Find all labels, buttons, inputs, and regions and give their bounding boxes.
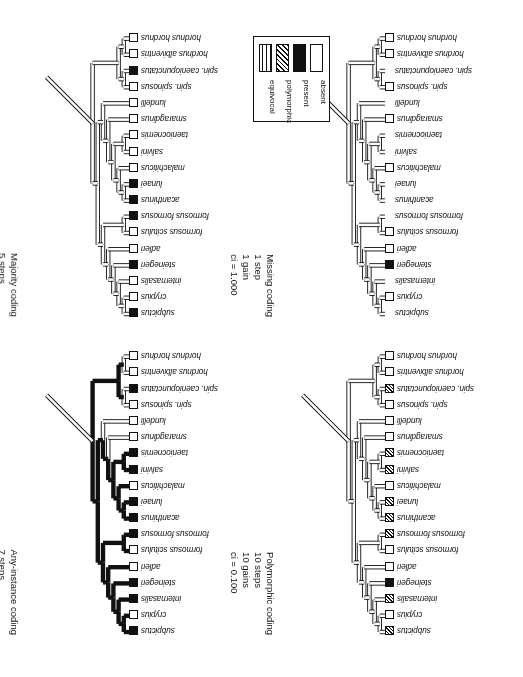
state-box-absent xyxy=(129,367,138,376)
state-box-none xyxy=(385,67,392,74)
taxon-row: formosus formosus xyxy=(385,526,517,542)
taxon-row: internasalis xyxy=(385,590,517,606)
state-box-present xyxy=(385,578,394,587)
taxon-name: crypius xyxy=(141,610,166,619)
panel-steps: 10 steps xyxy=(252,552,264,635)
state-box-absent xyxy=(129,481,138,490)
state-box-present xyxy=(129,465,138,474)
taxon-name: hordnus albiventris xyxy=(397,49,464,58)
taxon-row: spin. caeniopunctatus xyxy=(129,380,261,396)
state-box-present xyxy=(129,513,138,522)
state-box-absent xyxy=(385,481,394,490)
taxon-row: subpictus xyxy=(385,623,517,639)
taxon-row: lundelli xyxy=(129,412,261,428)
state-box-absent xyxy=(129,562,138,571)
legend-swatch-present xyxy=(293,44,306,72)
taxon-row: spin. spinosus xyxy=(129,396,261,412)
state-box-present xyxy=(129,179,138,188)
state-box-absent xyxy=(385,292,394,301)
state-box-present xyxy=(129,448,138,457)
taxon-row: spin. caeniopunctatus xyxy=(385,62,517,78)
taxon-row: malachiticus xyxy=(129,159,261,175)
state-box-none xyxy=(385,277,392,284)
taxon-name: formosus formosus xyxy=(141,529,209,538)
cladogram xyxy=(16,25,129,325)
taxon-row: hordnus albiventris xyxy=(129,46,261,62)
state-box-absent xyxy=(129,98,138,107)
taxon-name: spin. spinosus xyxy=(141,400,191,409)
state-box-none xyxy=(385,180,392,187)
taxon-row: acanthinus xyxy=(385,192,517,208)
taxon-row: hordnus hordnus xyxy=(129,30,261,46)
state-box-absent xyxy=(385,227,394,236)
state-box-present xyxy=(385,260,394,269)
state-box-absent xyxy=(129,292,138,301)
state-box-polymorphic xyxy=(385,594,394,603)
taxon-name: smaragdinus xyxy=(397,114,443,123)
taxon-name: hordnus albiventris xyxy=(397,367,464,376)
taxon-name: salvini xyxy=(397,465,419,474)
taxon-name: acanthinus xyxy=(397,513,436,522)
state-box-polymorphic xyxy=(385,448,394,457)
taxon-name: lundelli xyxy=(397,416,422,425)
taxon-name: lunaei xyxy=(395,179,416,188)
legend-item xyxy=(258,44,273,72)
taxon-row: lunaei xyxy=(385,175,517,191)
legend-item xyxy=(309,44,324,72)
state-box-none xyxy=(385,212,392,219)
state-box-absent xyxy=(129,610,138,619)
taxon-name: internasalis xyxy=(141,594,181,603)
panel-steps: 5 steps xyxy=(0,253,8,317)
legend-swatch-absent xyxy=(310,44,323,72)
state-box-absent xyxy=(385,49,394,58)
state-box-polymorphic xyxy=(385,529,394,538)
state-box-absent xyxy=(129,114,138,123)
taxon-name: formosus formosus xyxy=(395,211,463,220)
taxon-row: acanthinus xyxy=(129,510,261,526)
taxon-name: lundelli xyxy=(141,416,166,425)
panel-any-instance-coding: Any-instance coding7 steps1 gain, 6 loss… xyxy=(16,343,261,643)
taxon-name: formosus scitulus xyxy=(141,227,203,236)
taxon-row: malachiticus xyxy=(129,477,261,493)
taxon-name: internasalis xyxy=(395,276,435,285)
taxon-row: salvini xyxy=(385,461,517,477)
taxon-row: smaragdinus xyxy=(385,429,517,445)
taxon-row: smaragdinus xyxy=(129,429,261,445)
panel-steps: 1 step xyxy=(252,254,264,317)
state-box-absent xyxy=(129,227,138,236)
state-box-absent xyxy=(129,82,138,91)
taxon-row: salvini xyxy=(129,461,261,477)
taxon-row: spin. spinosus xyxy=(385,396,517,412)
taxon-name: subpictus xyxy=(397,626,431,635)
taxon-name: taeniocnemis xyxy=(395,130,442,139)
taxon-name: formosus scitulus xyxy=(397,545,459,554)
taxon-name: hordnus hordnus xyxy=(141,351,201,360)
taxon-name: malachiticus xyxy=(141,481,185,490)
taxon-row: acanthinus xyxy=(129,192,261,208)
taxon-name: taeniocnemis xyxy=(141,130,188,139)
taxon-row: hordnus albiventris xyxy=(385,364,517,380)
taxon-name: smaragdinus xyxy=(141,114,187,123)
state-box-none xyxy=(385,131,392,138)
taxon-name: acanthinus xyxy=(141,513,180,522)
taxon-row: lundelli xyxy=(129,94,261,110)
state-box-polymorphic xyxy=(385,513,394,522)
cladogram xyxy=(16,343,129,643)
taxon-name: hordnus albiventris xyxy=(141,49,208,58)
taxon-row: lunaei xyxy=(129,493,261,509)
state-box-absent xyxy=(385,163,394,172)
taxon-name: taeniocnemis xyxy=(397,448,444,457)
taxon-row: formosus scitulus xyxy=(385,542,517,558)
taxon-name: subpictus xyxy=(141,308,175,317)
state-box-absent xyxy=(385,562,394,571)
taxon-name: crypius xyxy=(397,610,422,619)
taxon-name: malachiticus xyxy=(397,163,441,172)
state-box-none xyxy=(385,99,392,106)
taxon-row: hordnus hordnus xyxy=(129,348,261,364)
taxon-row: spin. spinosus xyxy=(129,78,261,94)
taxon-row: malachiticus xyxy=(385,477,517,493)
taxon-name: steinegeri xyxy=(397,578,432,587)
state-box-absent xyxy=(385,33,394,42)
taxon-row: steinegeri xyxy=(385,574,517,590)
taxon-row: salvini xyxy=(129,143,261,159)
